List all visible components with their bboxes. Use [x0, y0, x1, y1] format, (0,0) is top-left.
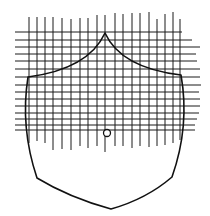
shield-lattice-drawing: [0, 0, 210, 216]
center-boss-circle: [104, 130, 111, 137]
